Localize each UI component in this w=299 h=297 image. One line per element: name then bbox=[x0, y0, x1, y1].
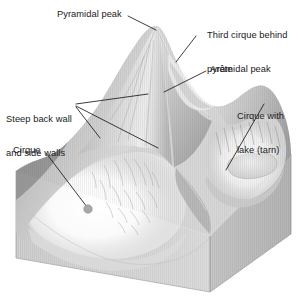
label-cirque-with-lake-line1: Cirque with bbox=[237, 111, 284, 122]
label-cirque-with-lake-line2: lake (tarn) bbox=[237, 145, 284, 156]
label-arete: Arête bbox=[210, 64, 232, 75]
leader-third-cirque bbox=[176, 36, 196, 62]
cirque-marker-dot bbox=[84, 205, 93, 214]
label-cirque: Cirque bbox=[13, 145, 41, 156]
label-steep-walls-line1: Steep back wall bbox=[6, 114, 72, 125]
label-steep-back-wall-and-side-walls: Steep back wall and side walls bbox=[6, 92, 72, 182]
label-third-cirque-line1: Third cirque behind bbox=[207, 30, 288, 41]
label-pyramidal-peak: Pyramidal peak bbox=[57, 9, 122, 20]
leader-pyramidal-peak bbox=[128, 16, 156, 30]
label-third-cirque: Third cirque behind pyramidal peak bbox=[207, 8, 288, 98]
diagram-canvas: Pyramidal peak Third cirque behind pyram… bbox=[0, 0, 299, 297]
label-cirque-with-lake: Cirque with lake (tarn) bbox=[237, 89, 284, 179]
